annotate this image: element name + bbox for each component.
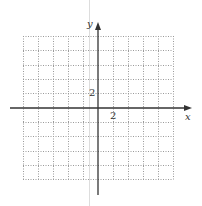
y-axis-arrow-icon — [95, 22, 101, 30]
y-axis-label: y — [87, 19, 93, 29]
coordinate-plane — [0, 0, 202, 206]
x-axis-label: x — [185, 112, 191, 122]
x-tick-label: 2 — [110, 111, 116, 121]
y-tick-label: 2 — [89, 88, 95, 98]
